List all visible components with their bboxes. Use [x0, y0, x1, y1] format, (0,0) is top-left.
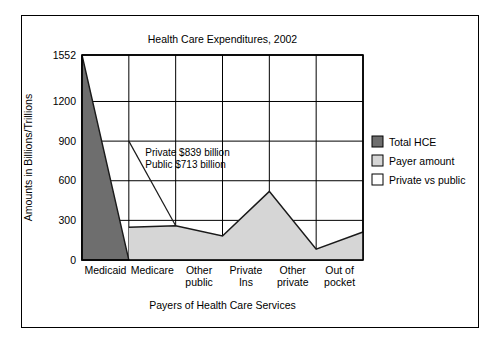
x-tick-label: pocket	[324, 276, 355, 288]
legend-label: Total HCE	[389, 136, 436, 148]
x-tick-label: Other	[186, 264, 213, 276]
y-tick-label: 0	[70, 254, 76, 266]
x-tick-label: Medicare	[131, 264, 174, 276]
x-tick-label: Medicaid	[84, 264, 126, 276]
legend-swatch	[372, 136, 383, 147]
y-tick-label: 600	[58, 174, 76, 186]
legend-swatch	[372, 174, 383, 185]
figure-container: 030060090012001552Amounts in Billions/Tr…	[0, 0, 498, 345]
y-tick-label: 300	[58, 214, 76, 226]
y-tick-label: 900	[58, 135, 76, 147]
legend-swatch	[372, 155, 383, 166]
chart-canvas: 030060090012001552Amounts in Billions/Tr…	[0, 0, 498, 345]
x-tick-label: public	[185, 276, 212, 288]
chart-title: Health Care Expenditures, 2002	[148, 33, 298, 45]
chart-annotation: Private $839 billion	[145, 147, 230, 158]
legend-label: Private vs public	[389, 174, 465, 186]
x-tick-label: Out of	[325, 264, 354, 276]
x-axis-title: Payers of Health Care Services	[149, 299, 295, 311]
x-tick-label: Other	[280, 264, 307, 276]
chart-annotation: Public $713 billion	[145, 159, 226, 170]
x-tick-label: Ins	[239, 276, 253, 288]
y-tick-label: 1552	[53, 49, 77, 61]
x-tick-label: Private	[230, 264, 263, 276]
y-axis-title: Amounts in Billions/Trillions	[22, 94, 34, 221]
x-tick-label: private	[277, 276, 309, 288]
y-tick-label: 1200	[53, 95, 77, 107]
legend-label: Payer amount	[389, 155, 454, 167]
